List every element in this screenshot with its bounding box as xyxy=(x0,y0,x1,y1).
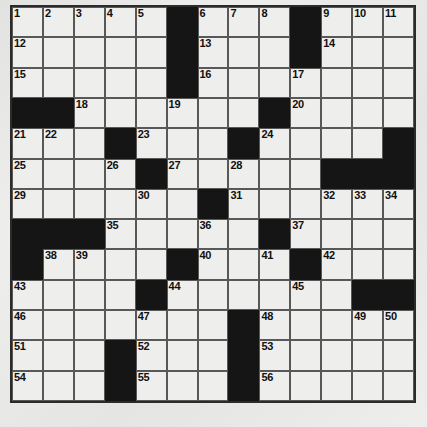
letter-square[interactable] xyxy=(167,340,198,370)
letter-square[interactable] xyxy=(105,37,136,67)
letter-square[interactable] xyxy=(259,37,290,67)
letter-square[interactable] xyxy=(352,68,383,98)
letter-square[interactable] xyxy=(43,340,74,370)
letter-square[interactable] xyxy=(105,280,136,310)
letter-square[interactable]: 37 xyxy=(290,219,321,249)
letter-square[interactable]: 54 xyxy=(12,371,43,401)
letter-square[interactable]: 26 xyxy=(105,159,136,189)
letter-square[interactable]: 14 xyxy=(321,37,352,67)
letter-square[interactable]: 40 xyxy=(198,249,229,279)
letter-square[interactable] xyxy=(383,68,414,98)
letter-square[interactable] xyxy=(198,98,229,128)
letter-square[interactable] xyxy=(74,128,105,158)
letter-square[interactable] xyxy=(290,371,321,401)
letter-square[interactable]: 55 xyxy=(136,371,167,401)
letter-square[interactable]: 49 xyxy=(352,310,383,340)
letter-square[interactable] xyxy=(167,128,198,158)
letter-square[interactable] xyxy=(290,189,321,219)
letter-square[interactable]: 35 xyxy=(105,219,136,249)
letter-square[interactable] xyxy=(198,310,229,340)
letter-square[interactable] xyxy=(290,340,321,370)
letter-square[interactable] xyxy=(136,37,167,67)
letter-square[interactable]: 28 xyxy=(228,159,259,189)
letter-square[interactable]: 39 xyxy=(74,249,105,279)
letter-square[interactable]: 22 xyxy=(43,128,74,158)
letter-square[interactable] xyxy=(74,310,105,340)
letter-square[interactable] xyxy=(259,189,290,219)
letter-square[interactable]: 19 xyxy=(167,98,198,128)
letter-square[interactable]: 3 xyxy=(74,7,105,37)
letter-square[interactable] xyxy=(43,68,74,98)
letter-square[interactable] xyxy=(228,37,259,67)
letter-square[interactable] xyxy=(228,249,259,279)
letter-square[interactable]: 32 xyxy=(321,189,352,219)
letter-square[interactable] xyxy=(383,37,414,67)
letter-square[interactable] xyxy=(136,98,167,128)
letter-square[interactable] xyxy=(43,310,74,340)
letter-square[interactable] xyxy=(259,159,290,189)
letter-square[interactable] xyxy=(167,219,198,249)
letter-square[interactable]: 38 xyxy=(43,249,74,279)
letter-square[interactable] xyxy=(352,98,383,128)
letter-square[interactable] xyxy=(290,159,321,189)
letter-square[interactable]: 53 xyxy=(259,340,290,370)
letter-square[interactable]: 18 xyxy=(74,98,105,128)
letter-square[interactable] xyxy=(105,249,136,279)
letter-square[interactable] xyxy=(198,371,229,401)
letter-square[interactable]: 5 xyxy=(136,7,167,37)
letter-square[interactable]: 48 xyxy=(259,310,290,340)
letter-square[interactable] xyxy=(198,159,229,189)
letter-square[interactable] xyxy=(136,219,167,249)
letter-square[interactable]: 4 xyxy=(105,7,136,37)
letter-square[interactable]: 56 xyxy=(259,371,290,401)
letter-square[interactable] xyxy=(383,219,414,249)
letter-square[interactable]: 51 xyxy=(12,340,43,370)
letter-square[interactable] xyxy=(290,310,321,340)
letter-square[interactable]: 2 xyxy=(43,7,74,37)
letter-square[interactable]: 13 xyxy=(198,37,229,67)
letter-square[interactable] xyxy=(105,68,136,98)
letter-square[interactable]: 34 xyxy=(383,189,414,219)
letter-square[interactable] xyxy=(136,68,167,98)
letter-square[interactable]: 11 xyxy=(383,7,414,37)
letter-square[interactable] xyxy=(259,280,290,310)
letter-square[interactable]: 29 xyxy=(12,189,43,219)
letter-square[interactable]: 15 xyxy=(12,68,43,98)
letter-square[interactable]: 16 xyxy=(198,68,229,98)
letter-square[interactable] xyxy=(321,280,352,310)
letter-square[interactable] xyxy=(74,280,105,310)
letter-square[interactable]: 41 xyxy=(259,249,290,279)
letter-square[interactable] xyxy=(167,189,198,219)
letter-square[interactable] xyxy=(383,340,414,370)
letter-square[interactable]: 50 xyxy=(383,310,414,340)
letter-square[interactable] xyxy=(321,68,352,98)
letter-square[interactable] xyxy=(198,128,229,158)
letter-square[interactable] xyxy=(321,371,352,401)
letter-square[interactable] xyxy=(352,371,383,401)
letter-square[interactable]: 31 xyxy=(228,189,259,219)
letter-square[interactable]: 47 xyxy=(136,310,167,340)
letter-square[interactable]: 45 xyxy=(290,280,321,310)
letter-square[interactable] xyxy=(321,219,352,249)
letter-square[interactable] xyxy=(43,159,74,189)
crossword-grid[interactable]: 1234567891011121314151617181920212223242… xyxy=(10,5,416,403)
letter-square[interactable] xyxy=(74,68,105,98)
letter-square[interactable] xyxy=(290,128,321,158)
letter-square[interactable]: 44 xyxy=(167,280,198,310)
letter-square[interactable] xyxy=(321,340,352,370)
letter-square[interactable] xyxy=(43,280,74,310)
letter-square[interactable] xyxy=(321,128,352,158)
letter-square[interactable]: 24 xyxy=(259,128,290,158)
letter-square[interactable] xyxy=(383,371,414,401)
letter-square[interactable]: 21 xyxy=(12,128,43,158)
letter-square[interactable] xyxy=(383,249,414,279)
letter-square[interactable]: 36 xyxy=(198,219,229,249)
letter-square[interactable] xyxy=(352,340,383,370)
letter-square[interactable] xyxy=(74,189,105,219)
letter-square[interactable] xyxy=(198,280,229,310)
letter-square[interactable] xyxy=(259,68,290,98)
letter-square[interactable] xyxy=(321,310,352,340)
letter-square[interactable]: 46 xyxy=(12,310,43,340)
letter-square[interactable]: 20 xyxy=(290,98,321,128)
letter-square[interactable]: 17 xyxy=(290,68,321,98)
